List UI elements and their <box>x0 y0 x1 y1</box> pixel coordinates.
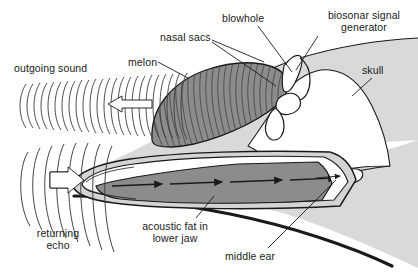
leader-melon <box>158 62 188 78</box>
label-biosonar-signal-generator: biosonar signal generator <box>314 10 414 33</box>
leader-nasal-sacs-a <box>212 40 264 62</box>
label-melon: melon <box>128 57 157 69</box>
label-acoustic-fat-in-lower-jaw: acoustic fat in lower jaw <box>133 221 217 244</box>
label-outgoing-sound: outgoing sound <box>14 63 87 75</box>
label-middle-ear: middle ear <box>225 251 275 263</box>
label-returning-echo: returning echo <box>18 228 98 251</box>
label-nasal-sacs: nasal sacs <box>160 32 211 44</box>
outgoing-sound-arrow <box>108 96 152 112</box>
label-blowhole: blowhole <box>222 13 264 25</box>
label-skull: skull <box>362 65 384 77</box>
figure-canvas: outgoing sound melon nasal sacs blowhole… <box>0 0 418 276</box>
